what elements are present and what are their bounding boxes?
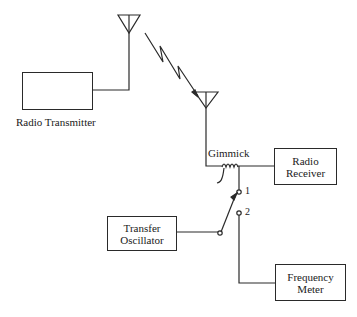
radio-transmitter-box <box>22 72 93 110</box>
gimmick-label: Gimmick <box>208 147 250 159</box>
selector-switch-icon <box>218 190 241 235</box>
frequency-meter-label-line1: Frequency <box>287 271 333 283</box>
transfer-oscillator-label-line1: Transfer <box>124 222 161 234</box>
transfer-oscillator-box: Transfer Oscillator <box>107 216 177 251</box>
switch-meter-wire <box>239 215 275 283</box>
radio-receiver-label-line1: Radio <box>292 155 318 167</box>
transmitter-antenna-wire <box>93 33 129 90</box>
gimmick-coil-icon <box>217 164 239 190</box>
switch-position-2-label: 2 <box>245 206 250 217</box>
frequency-meter-box: Frequency Meter <box>275 264 346 301</box>
radio-link-lightning-icon <box>145 33 198 97</box>
receive-antenna-icon <box>195 92 218 108</box>
radio-receiver-box: Radio Receiver <box>274 148 337 185</box>
transfer-oscillator-label-line2: Oscillator <box>120 234 163 246</box>
switch-position-1-label: 1 <box>245 185 250 196</box>
radio-receiver-label-line2: Receiver <box>286 167 325 179</box>
frequency-meter-label-line2: Meter <box>297 283 323 295</box>
radio-transmitter-label: Radio Transmitter <box>16 116 96 128</box>
transmit-antenna-icon <box>118 15 140 33</box>
